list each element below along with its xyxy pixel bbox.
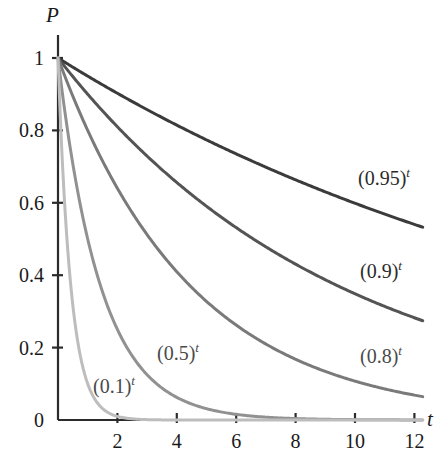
- curve-label-2: (0.8)t: [360, 346, 402, 366]
- curve-label-exponent: t: [131, 373, 135, 388]
- x-tick-label: 2: [97, 431, 137, 451]
- y-tick-label: 0: [0, 410, 44, 430]
- curve-label-base: (0.1): [93, 375, 131, 397]
- x-tick-label: 10: [335, 431, 375, 451]
- x-tick-label: 8: [276, 431, 316, 451]
- curve-label-exponent: t: [195, 340, 199, 355]
- y-tick-label: 0.6: [0, 193, 44, 213]
- curve-label-base: (0.8): [360, 345, 398, 367]
- curve-label-4: (0.1)t: [93, 376, 135, 396]
- curve-0: [58, 58, 423, 227]
- curve-label-base: (0.9): [360, 260, 398, 282]
- x-tick-label: 6: [216, 431, 256, 451]
- curve-label-0: (0.95)t: [358, 168, 410, 188]
- chart-figure: P t 00.20.40.60.81 24681012 (0.95)t(0.9)…: [0, 0, 448, 459]
- x-tick-label: 4: [157, 431, 197, 451]
- y-tick-label: 0.8: [0, 120, 44, 140]
- axis-ticks: [52, 58, 414, 423]
- y-tick-label: 0.4: [0, 265, 44, 285]
- y-tick-label: 1: [0, 48, 44, 68]
- curve-label-base: (0.5): [157, 342, 195, 364]
- curve-label-base: (0.95): [358, 167, 406, 189]
- x-tick-label: 12: [394, 431, 434, 451]
- curve-label-exponent: t: [398, 258, 402, 273]
- x-axis-title: t: [427, 409, 433, 430]
- curve-label-exponent: t: [406, 165, 410, 180]
- curve-label-1: (0.9)t: [360, 261, 402, 281]
- curve-label-3: (0.5)t: [157, 343, 199, 363]
- plot-canvas: [0, 0, 448, 459]
- y-tick-label: 0.2: [0, 338, 44, 358]
- curve-label-exponent: t: [398, 343, 402, 358]
- y-axis-title: P: [46, 5, 59, 26]
